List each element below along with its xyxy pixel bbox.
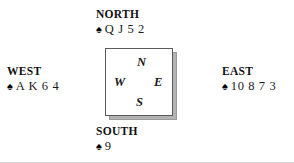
hand-south-cards-text: 9 — [105, 139, 112, 153]
hand-west-cards: ♠A K 6 4 — [7, 79, 59, 94]
compass-east-letter: E — [154, 75, 162, 90]
hand-east-cards: ♠10 8 7 3 — [222, 79, 276, 94]
compass-box-face: N W E S — [105, 48, 173, 116]
hand-north-cards-text: Q J 5 2 — [105, 22, 145, 36]
hand-west-label: WEST — [7, 64, 59, 78]
hand-east: EAST ♠10 8 7 3 — [222, 64, 276, 94]
hand-east-label: EAST — [222, 64, 276, 78]
hand-north-label: NORTH — [96, 7, 145, 21]
hand-south-label: SOUTH — [96, 124, 138, 138]
compass-south-letter: S — [136, 95, 143, 110]
hand-north-cards: ♠Q J 5 2 — [96, 22, 145, 37]
hand-south: SOUTH ♠9 — [96, 124, 138, 154]
spade-suit-icon: ♠ — [96, 23, 102, 35]
hand-north: NORTH ♠Q J 5 2 — [96, 7, 145, 37]
compass-west-letter: W — [114, 75, 125, 90]
hand-west: WEST ♠A K 6 4 — [7, 64, 59, 94]
bridge-hand-diagram: NORTH ♠Q J 5 2 WEST ♠A K 6 4 EAST ♠10 8 … — [0, 0, 294, 163]
spade-suit-icon: ♠ — [222, 80, 228, 92]
hand-east-cards-text: 10 8 7 3 — [231, 79, 276, 93]
compass-box: N W E S — [105, 48, 173, 116]
spade-suit-icon: ♠ — [96, 140, 102, 152]
spade-suit-icon: ♠ — [7, 80, 13, 92]
hand-west-cards-text: A K 6 4 — [16, 79, 59, 93]
hand-south-cards: ♠9 — [96, 139, 138, 154]
compass-north-letter: N — [137, 55, 146, 70]
